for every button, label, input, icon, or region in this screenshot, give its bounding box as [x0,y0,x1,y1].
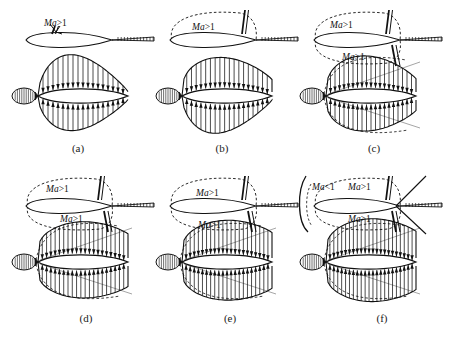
pressure-arrow [237,103,240,126]
pressure-arrow [251,66,254,91]
pressure-arrow [101,68,104,90]
pressure-arrow [225,220,228,253]
pressure-arrow [369,104,372,130]
pressure-arrow [195,64,198,90]
pressure-arrow [111,76,114,91]
pressure-arrow [106,101,109,116]
pressure-distribution-f [296,214,444,310]
pressure-arrow [266,230,269,260]
pressure-arrow [66,270,69,296]
pressure-arrow [379,270,382,301]
pressure-arrow [193,267,196,291]
pressure-arrow [242,222,245,255]
pressure-arrow [246,268,249,298]
pressure-arrow [91,104,94,125]
airfoil-body [314,32,400,47]
pressure-arrow [197,268,200,294]
pressure-arrow [387,220,390,255]
pressure-arrow [250,224,253,257]
pressure-arrow [122,231,125,260]
pressure-arrow [75,222,78,253]
pressure-arrow [83,222,86,254]
pressure-arrow [199,61,202,89]
panel-caption-a: (a) [48,142,108,154]
pressure-arrow [242,103,245,124]
pressure-arrow [250,267,253,296]
pressure-arrow [383,103,386,128]
pressure-arrow [256,100,259,113]
pressure-arrow [209,58,212,88]
airfoil-section [326,255,416,269]
airfoil-section [182,89,272,103]
pressure-arrow [401,100,404,120]
pressure-distribution-e [152,214,300,310]
pressure-arrow [246,223,249,256]
panel-caption-f: (f) [352,312,412,324]
pressure-arrow [201,269,204,296]
pressure-arrow [221,270,224,300]
pressure-arrow [333,67,336,92]
pressure-arrow [383,220,386,255]
mach-label: Ma>1 [43,18,67,28]
pressure-arrow [387,61,390,89]
pressure-arrow [238,221,241,255]
pressure-arrow [338,63,341,90]
pressure-arrow [328,264,331,285]
pressure-arrow [401,68,404,92]
shock-wave-upper-2 [102,176,105,200]
pressure-arrow [251,101,254,117]
pressure-arrow [109,226,112,257]
pressure-arrow [365,56,368,88]
oblique-shock-1 [396,176,426,206]
pressure-arrow [242,62,245,89]
pressure-arrow [392,63,395,90]
pressure-arrow [190,100,193,121]
pressure-arrow [351,57,354,88]
pressure-arrow [122,264,125,289]
pressure-arrow [184,265,187,285]
mach-label: Ma>1 [329,20,353,30]
pressure-arrow [209,222,212,254]
pressure-arrow [217,221,220,254]
pressure-arrow [79,270,82,298]
pressure-arrow [91,62,94,89]
pressure-arrow [105,268,108,295]
pressure-arrow [62,225,65,255]
pressure-arrow [375,219,378,254]
pressure-arrow [204,103,207,131]
pressure-arrow [336,228,339,256]
pressure-arrow [383,269,386,300]
pressure-arrow [46,67,49,92]
pressure-arrow [387,103,390,127]
pressure-arrow [378,104,381,129]
pressure-arrow [96,65,99,89]
pressure-arrow [340,226,343,256]
pressure-arrow [369,56,372,87]
airfoil-body [26,198,112,213]
pressure-arrow [118,265,121,291]
pressure-arrow [347,103,350,128]
pressure-arrow [41,238,44,260]
pressure-distribution-b [152,48,300,144]
pressure-arrow [403,266,406,296]
pressure-arrow [344,269,347,297]
pressure-arrow [328,236,331,259]
pressure-arrow [101,102,104,119]
pressure-arrow [81,104,84,129]
pressure-arrow [218,57,221,87]
panel-f: Ma<1Ma>1Ma>1 [296,170,444,335]
pressure-arrow [184,237,187,260]
pressure-arrow [205,270,208,298]
pressure-arrow [229,220,232,254]
transonic-flow-figure: Ma>1(a)Ma>1(b)Ma>1Ma>1(c)Ma>1Ma>1(d)Ma>1… [0,0,452,338]
pressure-arrow [45,266,48,287]
pressure-arrow [195,102,198,127]
pressure-arrow [92,222,95,254]
pressure-arrow [61,104,64,130]
pressure-arrow [96,103,99,122]
pressure-arrow [205,224,208,255]
airfoil-body [26,32,112,47]
shock-wave-upper-2 [246,176,249,200]
pressure-arrow [266,75,269,94]
pressure-arrow [399,224,402,258]
